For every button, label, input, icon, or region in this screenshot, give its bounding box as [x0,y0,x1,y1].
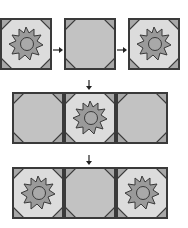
row3-strip [12,167,168,219]
row2-plain-tile-1 [12,92,64,144]
row2-strip [12,92,168,144]
row1-flower-tile-2 [128,18,180,70]
row2-plain-tile-2 [116,92,168,144]
row3-flower-tile-1 [12,167,64,219]
right-arrow-icon [53,40,63,58]
right-arrow-icon [117,40,127,58]
row2-flower-tile [64,92,116,144]
row1-flower-tile-1 [0,18,52,70]
row3-flower-tile-2 [116,167,168,219]
row1-plain-tile [64,18,116,70]
row3-plain-tile [64,167,116,219]
